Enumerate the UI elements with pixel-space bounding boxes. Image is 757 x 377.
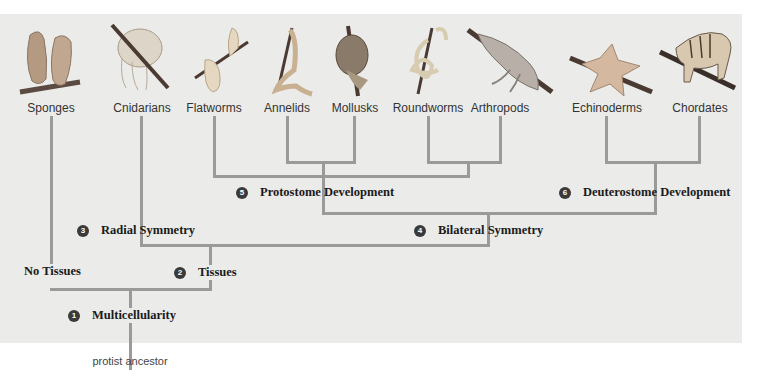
node-number-badge: 2 (174, 267, 186, 279)
snail-icon (336, 26, 368, 96)
node-label: Multicellularity (92, 308, 176, 323)
node-deuterostome-development: 6 Deuterostome Development (559, 185, 730, 200)
node-multicellularity: 1 Multicellularity (66, 308, 178, 323)
sea-star-icon (570, 44, 652, 96)
flatworm-icon (195, 28, 248, 92)
taxon-cnidarians: Cnidarians (113, 101, 170, 115)
node-number-badge: 3 (77, 225, 89, 237)
jellyfish-icon (112, 25, 168, 90)
node-protostome-development: 5 Protostome Development (236, 185, 394, 200)
node-label: Protostome Development (260, 185, 394, 200)
root-protist-ancestor: protist ancestor (92, 355, 167, 367)
sponge-icon (20, 32, 80, 92)
lobster-icon (468, 30, 552, 92)
node-label: Deuterostome Development (583, 185, 730, 200)
tiger-icon (660, 33, 735, 88)
node-label: Bilateral Symmetry (438, 223, 543, 238)
node-label: No Tissues (24, 264, 81, 279)
earthworm-icon (276, 28, 312, 94)
node-label: Radial Symmetry (101, 223, 195, 238)
roundworm-icon (412, 28, 446, 94)
node-number-badge: 4 (414, 225, 426, 237)
taxon-sponges: Sponges (27, 101, 74, 115)
taxon-echinoderms: Echinoderms (572, 101, 642, 115)
node-number-badge: 1 (68, 310, 80, 322)
node-number-badge: 5 (236, 187, 248, 199)
organism-illustrations (0, 0, 757, 110)
node-no-tissues: No Tissues (22, 264, 83, 279)
node-label: Tissues (198, 265, 237, 280)
node-radial-symmetry: 3 Radial Symmetry (77, 223, 195, 238)
node-bilateral-symmetry: 4 Bilateral Symmetry (414, 223, 543, 238)
node-number-badge: 6 (559, 187, 571, 199)
taxon-flatworms: Flatworms (186, 101, 241, 115)
node-tissues: 2 Tissues (172, 265, 239, 280)
taxon-arthropods: Arthropods (471, 101, 530, 115)
taxon-annelids: Annelids (264, 101, 310, 115)
taxon-roundworms: Roundworms (393, 101, 464, 115)
taxon-mollusks: Mollusks (332, 101, 379, 115)
taxon-chordates: Chordates (672, 101, 727, 115)
